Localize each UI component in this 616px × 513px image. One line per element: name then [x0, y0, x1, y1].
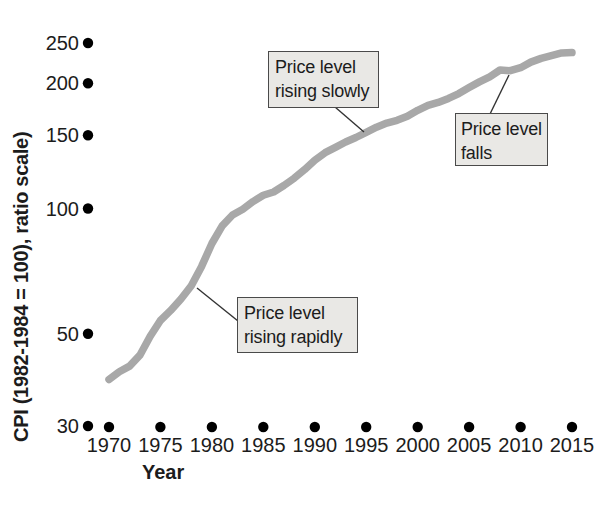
x-tick-label: 1995 — [344, 434, 389, 456]
annotation-text-line: falls — [461, 141, 542, 165]
x-axis-dot — [413, 422, 423, 432]
y-axis-tick-labels: 3050100150200250 — [46, 32, 79, 437]
x-axis-dot — [207, 422, 217, 432]
x-tick-label: 2000 — [395, 434, 440, 456]
x-tick-label: 1985 — [241, 434, 286, 456]
cpi-ratio-scale-figure: 3050100150200250 19701975198019851990199… — [0, 0, 616, 513]
annotation-text-line: Price level — [461, 117, 542, 141]
y-axis-dot — [83, 203, 93, 213]
annotation-text-line: Price level — [244, 301, 351, 325]
x-axis-tick-labels: 1970197519801985199019952000200520102015 — [87, 434, 595, 456]
y-axis-dot — [83, 329, 93, 339]
annotation-price-level-rising-slowly: Price level rising slowly — [268, 51, 379, 108]
x-tick-label: 1975 — [138, 434, 183, 456]
y-axis-dot — [83, 421, 93, 431]
y-tick-label: 100 — [46, 198, 79, 220]
x-axis-dot — [104, 422, 114, 432]
x-axis-dot — [310, 422, 320, 432]
x-axis-dots — [104, 422, 577, 432]
y-axis-title: CPI (1982-1984 = 100), ratio scale) — [10, 132, 33, 442]
y-axis-dot — [83, 78, 93, 88]
x-tick-label: 1980 — [190, 434, 235, 456]
x-tick-label: 2015 — [550, 434, 595, 456]
y-tick-label: 200 — [46, 72, 79, 94]
annotation-price-level-rising-rapidly: Price level rising rapidly — [237, 297, 358, 353]
x-axis-dot — [258, 422, 268, 432]
x-tick-label: 2010 — [498, 434, 543, 456]
x-axis-dot — [155, 422, 165, 432]
y-axis-dots — [83, 38, 93, 431]
leader-line-rising-rapidly — [197, 288, 238, 321]
y-tick-label: 250 — [46, 32, 79, 54]
annotation-price-level-falls: Price level falls — [455, 113, 548, 166]
x-axis-dot — [464, 422, 474, 432]
y-tick-label: 50 — [57, 323, 79, 345]
y-axis-dot — [83, 130, 93, 140]
annotation-text-line: Price level — [275, 55, 372, 79]
annotation-leader-lines — [197, 75, 509, 321]
y-axis-dot — [83, 38, 93, 48]
x-axis-dot — [515, 422, 525, 432]
annotation-text-line: rising rapidly — [244, 325, 351, 349]
y-tick-label: 30 — [57, 415, 79, 437]
leader-line-rising-slowly — [335, 107, 364, 132]
x-axis-title: Year — [142, 461, 184, 484]
x-tick-label: 1990 — [293, 434, 338, 456]
x-axis-dot — [361, 422, 371, 432]
annotation-text-line: rising slowly — [275, 79, 372, 103]
x-tick-label: 2005 — [447, 434, 492, 456]
x-axis-dot — [567, 422, 577, 432]
leader-line-falls — [490, 75, 509, 114]
y-tick-label: 150 — [46, 124, 79, 146]
x-tick-label: 1970 — [87, 434, 132, 456]
